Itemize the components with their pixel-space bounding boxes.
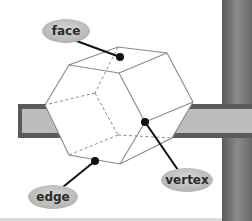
card-shadow xyxy=(0,218,222,221)
edge-label: edge xyxy=(28,185,78,209)
vertex-label: vertex xyxy=(161,168,213,192)
edge-label-text: edge xyxy=(36,190,69,204)
vertex-dot xyxy=(141,118,149,126)
prism-diagram: face edge vertex xyxy=(0,0,252,221)
face-label-text: face xyxy=(52,24,81,38)
vertex-label-text: vertex xyxy=(165,173,209,187)
diagram-canvas: face edge vertex xyxy=(0,0,252,221)
face-dot xyxy=(116,53,124,61)
edge-dot xyxy=(91,157,99,165)
face-label: face xyxy=(42,19,90,43)
